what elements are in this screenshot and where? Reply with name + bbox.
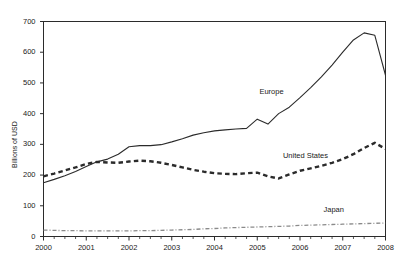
series-line-japan [44,223,386,231]
x-tick-label: 2004 [200,243,230,252]
data-series-group [44,33,386,231]
series-line-united-states [44,143,386,179]
y-major-ticks [40,22,44,237]
y-tick-label: 200 [10,170,36,179]
y-tick-label: 500 [10,78,36,87]
x-tick-label: 2001 [71,243,101,252]
x-tick-label: 2002 [114,243,144,252]
x-major-ticks [44,237,386,241]
y-tick-label: 700 [10,17,36,26]
x-tick-label: 2006 [285,243,315,252]
x-tick-label: 2000 [29,243,59,252]
line-chart-plot [0,0,408,270]
series-line-europe [44,33,386,183]
series-label-japan: Japan [324,205,344,214]
series-label-united-states: United States [283,151,328,160]
y-tick-label: 0 [10,232,36,241]
y-tick-label: 600 [10,47,36,56]
y-tick-label: 400 [10,109,36,118]
x-tick-label: 2008 [371,243,401,252]
chart-container: Billions of USD 0100200300400500600700 2… [0,0,408,270]
x-tick-label: 2007 [328,243,358,252]
y-tick-label: 100 [10,201,36,210]
x-tick-label: 2005 [242,243,272,252]
x-tick-label: 2003 [157,243,187,252]
series-label-europe: Europe [259,87,283,96]
y-tick-label: 300 [10,139,36,148]
